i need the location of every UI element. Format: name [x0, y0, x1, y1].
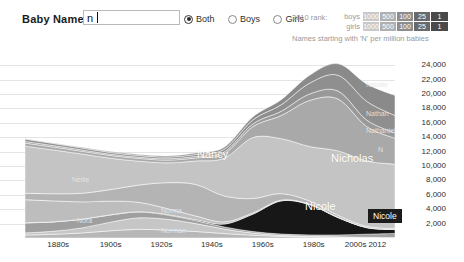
y-axis-tick: 24,000	[400, 60, 446, 69]
radio-option-boys[interactable]: Boys	[228, 14, 260, 24]
legend-note: Names starting with 'N' per million babi…	[292, 34, 429, 43]
y-axis-labels: 24,00022,00020,00018,00016,00014,00012,0…	[398, 48, 464, 238]
stream-chart: NancyNicholasNicoleNellieNoraNormaNorman…	[0, 48, 464, 238]
band-label-norman: Norman	[161, 227, 186, 234]
stream-graph[interactable]	[25, 48, 395, 238]
legend-row-label-girls: girls	[338, 22, 360, 31]
x-axis-tick: 1900s	[100, 240, 122, 249]
legend-title: 2010 rank:	[292, 13, 327, 22]
legend-swatch-25: 25	[414, 12, 431, 21]
y-axis-tick: 8,000	[400, 175, 446, 184]
y-axis-tick: 4,000	[400, 204, 446, 213]
y-axis-tick: 2,000	[400, 219, 446, 228]
x-axis-tick: 1880s	[47, 240, 69, 249]
x-axis-tick: 1980s	[303, 240, 325, 249]
band-label-nellie: Nellie	[72, 176, 90, 183]
y-axis-tick: 10,000	[400, 161, 446, 170]
band-label-nathan: Nathan	[366, 110, 389, 117]
band-label-nancy: Nancy	[197, 148, 228, 160]
legend-swatch-1: 1	[431, 12, 448, 21]
band-label-norma: Norma	[161, 207, 182, 214]
band-label-nora: Nora	[77, 217, 92, 224]
y-axis-tick: 12,000	[400, 147, 446, 156]
legend-row-girls: girls 1000 500 100 25 1	[338, 22, 448, 31]
x-axis-tick: 1960s	[252, 240, 274, 249]
hover-tooltip: Nicole	[368, 209, 402, 223]
legend-row-boys: boys 1000 500 100 25 1	[338, 12, 448, 21]
band-label-n: N	[378, 146, 383, 153]
radio-icon-girls[interactable]	[273, 15, 282, 24]
radio-option-both[interactable]: Both	[184, 14, 215, 24]
x-axis-tick: 1940s	[201, 240, 223, 249]
x-axis-tick: 2000s	[345, 240, 367, 249]
y-axis-tick: 16,000	[400, 118, 446, 127]
y-axis-tick: 14,000	[400, 132, 446, 141]
y-axis-tick: 20,000	[400, 89, 446, 98]
legend-swatch-girls-500: 500	[380, 22, 397, 31]
legend-swatches-boys: 1000 500 100 25 1	[363, 12, 448, 21]
y-axis-tick: 22,000	[400, 75, 446, 84]
band-label-nicholas: Nicholas	[331, 152, 373, 164]
band-label-nathaniel: Nathaniel	[366, 127, 396, 134]
y-axis-tick: 6,000	[400, 190, 446, 199]
radio-label-both: Both	[196, 14, 215, 24]
legend-swatch-girls-25: 25	[414, 22, 431, 31]
legend-swatch-500: 500	[380, 12, 397, 21]
band-label-nicole: Nicole	[305, 200, 336, 212]
band-label-natalie: Natalie	[366, 81, 388, 88]
toolbar: Baby Name > Both Boys Girls 2010 rank: b…	[0, 0, 464, 50]
legend-swatches-girls: 1000 500 100 25 1	[363, 22, 448, 31]
radio-icon-both[interactable]	[184, 15, 193, 24]
namevoyager-app: Baby Name > Both Boys Girls 2010 rank: b…	[0, 0, 464, 262]
stream-plot-area[interactable]	[25, 48, 395, 238]
legend-swatch-100: 100	[397, 12, 414, 21]
x-axis-tick: 1920s	[151, 240, 173, 249]
legend-row-label-boys: boys	[338, 12, 360, 21]
radio-label-boys: Boys	[240, 14, 260, 24]
text-caret	[97, 12, 98, 23]
legend-swatch-girls-1000: 1000	[363, 22, 380, 31]
x-axis-tick: 2012	[368, 240, 386, 249]
legend-swatch-girls-1: 1	[431, 22, 448, 31]
y-axis-tick: 18,000	[400, 103, 446, 112]
radio-icon-boys[interactable]	[228, 15, 237, 24]
legend-swatch-girls-100: 100	[397, 22, 414, 31]
x-axis-labels: 1880s1900s1920s1940s1960s1980s2000s2012	[0, 240, 464, 260]
legend-swatch-1000: 1000	[363, 12, 380, 21]
